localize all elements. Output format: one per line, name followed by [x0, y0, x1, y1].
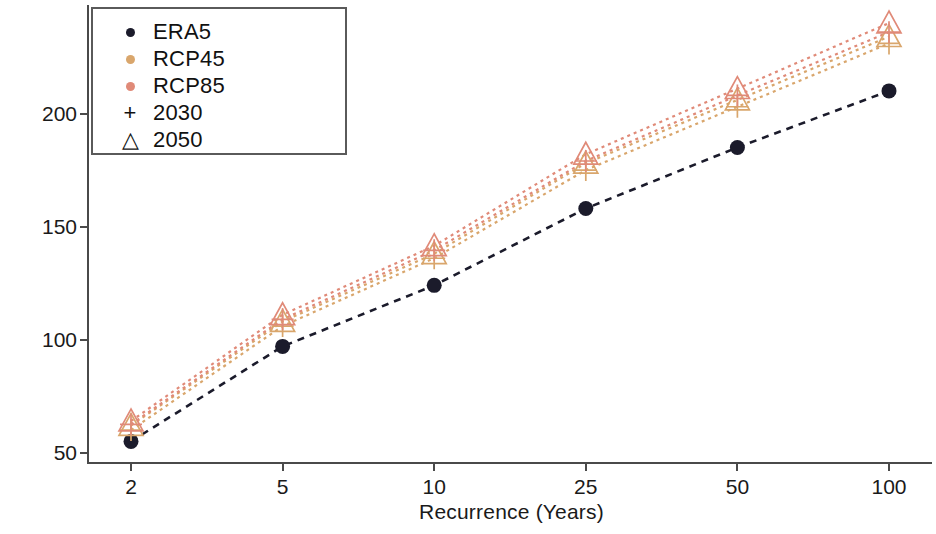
legend-marker-plus-icon: +	[107, 102, 153, 124]
x-axis-tick-mark	[130, 462, 132, 471]
triangle-icon: △	[122, 129, 139, 151]
data-point-circle	[275, 339, 290, 354]
x-axis-tick-label: 2	[125, 475, 137, 499]
legend-marker-circle-icon	[107, 82, 153, 91]
x-axis-tick-mark	[888, 462, 890, 471]
legend-item-2030[interactable]: +2030	[107, 100, 345, 126]
y-axis-tick-label: 100	[42, 328, 77, 352]
x-axis-tick-label: 5	[277, 475, 289, 499]
data-point-circle	[578, 201, 593, 216]
y-axis-tick-mark	[80, 452, 89, 454]
legend-item-2050[interactable]: △2050	[107, 127, 345, 153]
x-axis-tick-mark	[585, 462, 587, 471]
y-axis-tick-label: 150	[42, 215, 77, 239]
legend-item-label: RCP85	[153, 73, 225, 99]
legend-marker-circle-icon	[107, 28, 153, 37]
legend-item-era5[interactable]: ERA5	[107, 19, 345, 45]
x-axis-tick-label: 100	[871, 475, 906, 499]
y-axis-tick-mark	[80, 226, 89, 228]
legend-marker-triangle-icon: △	[107, 129, 153, 151]
legend-item-label: RCP45	[153, 46, 225, 72]
y-axis-tick-mark	[80, 339, 89, 341]
legend-item-rcp85[interactable]: RCP85	[107, 73, 345, 99]
x-axis-title-label: Recurrence (Years)	[419, 500, 604, 523]
legend-marker-circle-icon	[107, 55, 153, 64]
legend-item-label: 2050	[153, 127, 203, 153]
legend-item-rcp45[interactable]: RCP45	[107, 46, 345, 72]
plus-icon: +	[124, 102, 137, 124]
circle-icon	[126, 82, 135, 91]
x-axis-tick-label: 25	[574, 475, 597, 499]
data-point-plus	[575, 150, 597, 172]
precipitation-recurrence-chart: Precipitation (mm) 501001502002510255010…	[0, 0, 936, 534]
x-axis-tick-mark	[736, 462, 738, 471]
x-axis-tick-label: 50	[726, 475, 749, 499]
y-axis-tick-label: 200	[42, 102, 77, 126]
x-axis-tick-label: 10	[423, 475, 446, 499]
data-point-plus	[272, 308, 294, 330]
y-axis-title: Precipitation (mm)	[0, 0, 44, 534]
data-point-circle	[730, 140, 745, 155]
x-axis-tick-mark	[433, 462, 435, 471]
circle-icon	[126, 55, 135, 64]
x-axis-tick-mark	[282, 462, 284, 471]
circle-icon	[126, 28, 135, 37]
legend-item-label: ERA5	[153, 19, 211, 45]
x-axis-title: Recurrence (Years)	[87, 500, 936, 524]
y-axis-tick-mark	[80, 113, 89, 115]
y-axis-tick-label: 50	[54, 441, 77, 465]
chart-legend: ERA5RCP45RCP85+2030△2050	[91, 7, 347, 155]
data-point-circle	[427, 278, 442, 293]
legend-item-label: 2030	[153, 100, 203, 126]
data-point-circle	[882, 83, 897, 98]
